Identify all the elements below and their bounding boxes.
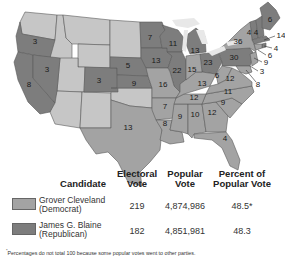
svg-text:7: 7	[148, 33, 153, 42]
svg-text:6: 6	[268, 51, 273, 60]
svg-text:4: 4	[254, 28, 259, 37]
svg-text:6: 6	[215, 71, 220, 80]
header-candidate: Candidate	[48, 179, 118, 189]
svg-text:13: 13	[152, 56, 161, 65]
svg-text:9: 9	[132, 79, 137, 88]
electoral-vote-blaine: 182	[122, 226, 152, 236]
svg-text:13: 13	[198, 79, 207, 88]
legend-swatch-republican	[12, 223, 36, 235]
svg-text:3: 3	[260, 67, 265, 76]
svg-text:7: 7	[163, 102, 168, 111]
svg-text:8: 8	[27, 80, 32, 89]
svg-text:5: 5	[126, 61, 131, 70]
percent-vote-blaine: 48.3	[226, 226, 258, 236]
header-percent-line2: Popular Vote	[210, 179, 274, 189]
candidate-cleveland: Grover Cleveland (Democrat)	[39, 196, 105, 214]
candidate-party: (Democrat)	[39, 205, 105, 214]
svg-text:9: 9	[264, 58, 269, 67]
header-electoral-line2: Vote	[112, 179, 162, 189]
svg-text:14: 14	[277, 31, 285, 40]
popular-vote-cleveland: 4,874,986	[160, 201, 210, 211]
svg-text:4: 4	[274, 44, 279, 53]
svg-text:12: 12	[208, 108, 217, 117]
svg-text:13: 13	[191, 46, 200, 55]
svg-text:22: 22	[173, 66, 182, 75]
svg-text:8: 8	[163, 119, 168, 128]
svg-text:4: 4	[247, 28, 252, 37]
svg-text:3: 3	[33, 37, 38, 46]
election-map: 3 8 3 3 5 9 13 7 13 16 7 8 11 22 13 15 2…	[0, 0, 285, 196]
popular-vote-blaine: 4,851,981	[160, 226, 210, 236]
header-electoral-vote: Electoral Vote	[112, 169, 162, 189]
svg-text:12: 12	[190, 93, 199, 102]
legend-swatch-democrat	[12, 198, 36, 210]
candidate-blaine: James G. Blaine (Republican)	[39, 221, 101, 239]
svg-text:36: 36	[234, 37, 243, 46]
svg-text:11: 11	[169, 39, 178, 48]
footnote: *Percentages do not total 100 because so…	[6, 248, 195, 256]
footnote-text: Percentages do not total 100 because som…	[8, 250, 196, 256]
svg-text:16: 16	[159, 80, 168, 89]
svg-text:30: 30	[230, 53, 239, 62]
svg-text:12: 12	[226, 74, 235, 83]
svg-text:11: 11	[224, 87, 233, 96]
svg-text:6: 6	[268, 15, 273, 24]
percent-vote-cleveland: 48.5*	[226, 201, 258, 211]
svg-text:3: 3	[45, 65, 50, 74]
svg-text:8: 8	[256, 80, 261, 89]
svg-text:23: 23	[204, 58, 213, 67]
svg-text:9: 9	[178, 112, 183, 121]
electoral-vote-cleveland: 219	[122, 201, 152, 211]
svg-text:13: 13	[124, 123, 133, 132]
svg-text:10: 10	[191, 110, 200, 119]
header-popular-line2: Vote	[163, 179, 207, 189]
svg-text:15: 15	[188, 65, 197, 74]
svg-text:3: 3	[97, 76, 102, 85]
svg-text:9: 9	[221, 98, 226, 107]
header-popular-vote: Popular Vote	[163, 169, 207, 189]
header-percent-popular-vote: Percent of Popular Vote	[210, 169, 274, 189]
svg-text:4: 4	[223, 134, 228, 143]
candidate-party: (Republican)	[39, 230, 101, 239]
